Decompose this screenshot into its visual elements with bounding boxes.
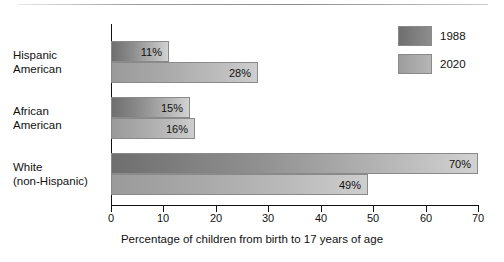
category-label-hispanic-line1: Hispanic	[13, 48, 109, 62]
x-axis-tick-label-40: 40	[306, 212, 336, 225]
bar-hispanic-american-2020: 28%	[111, 62, 258, 83]
category-label-hispanic-american: Hispanic American	[13, 48, 109, 76]
x-axis-tick-label-70: 70	[463, 212, 493, 225]
category-label-african-american: African American	[13, 104, 109, 132]
category-label-white-line2: (non-Hispanic)	[13, 174, 109, 188]
x-axis-tick-label-0: 0	[96, 212, 126, 225]
bar-value-hispanic-american-1988: 11%	[141, 46, 162, 58]
category-label-african-line1: African	[13, 104, 109, 118]
legend-label-2020: 2020	[440, 58, 466, 71]
chart-legend: 1988 2020	[398, 26, 466, 82]
page-top-rule	[18, 4, 488, 5]
bar-value-white-non-hispanic-1988: 70%	[449, 158, 471, 170]
x-axis-title: Percentage of children from birth to 17 …	[0, 232, 504, 246]
bar-chart-figure: 0 10 20 30 40 50 60 70 Hispanic American…	[0, 0, 504, 262]
legend-item-2020: 2020	[398, 54, 466, 74]
legend-swatch-2020-icon	[398, 54, 432, 74]
bar-value-white-non-hispanic-2020: 49%	[339, 179, 361, 191]
x-axis-tick-label-60: 60	[411, 212, 441, 225]
bar-value-african-american-2020: 16%	[166, 123, 188, 135]
bar-white-non-hispanic-1988: 70%	[111, 153, 478, 174]
category-label-african-line2: American	[13, 118, 109, 132]
x-axis-tick-label-50: 50	[358, 212, 388, 225]
category-label-white-line1: White	[13, 160, 109, 174]
bar-african-american-1988: 15%	[111, 97, 190, 118]
bar-value-hispanic-american-2020: 28%	[229, 67, 251, 79]
category-label-hispanic-line2: American	[13, 62, 109, 76]
bar-value-african-american-1988: 15%	[161, 102, 183, 114]
legend-label-1988: 1988	[440, 30, 466, 43]
bar-hispanic-american-1988: 11%	[111, 41, 169, 62]
bar-white-non-hispanic-2020: 49%	[111, 174, 368, 195]
x-axis-tick-label-10: 10	[148, 212, 178, 225]
legend-swatch-1988-icon	[398, 26, 432, 46]
x-axis-line	[111, 205, 479, 206]
legend-item-1988: 1988	[398, 26, 466, 46]
bar-african-american-2020: 16%	[111, 118, 195, 139]
x-axis-tick-label-30: 30	[253, 212, 283, 225]
category-label-white-non-hispanic: White (non-Hispanic)	[13, 160, 109, 188]
x-axis-tick-label-20: 20	[201, 212, 231, 225]
